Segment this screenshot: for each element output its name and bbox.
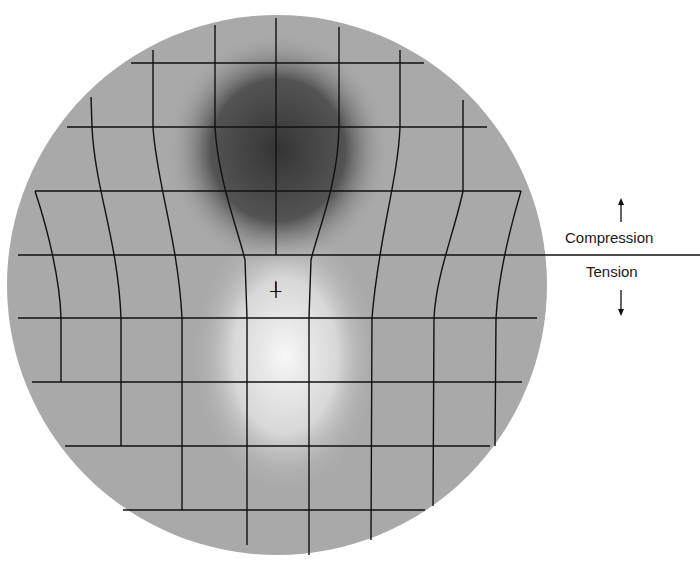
up-arrow-icon (618, 198, 624, 222)
dislocation-diagram: ⊥ (0, 0, 700, 569)
down-arrow-icon (618, 290, 624, 316)
tension-label: Tension (586, 263, 638, 280)
compression-label: Compression (565, 229, 653, 246)
compression-region (166, 32, 390, 268)
tension-region (190, 230, 380, 510)
dislocation-symbol: ⊥ (269, 277, 283, 296)
